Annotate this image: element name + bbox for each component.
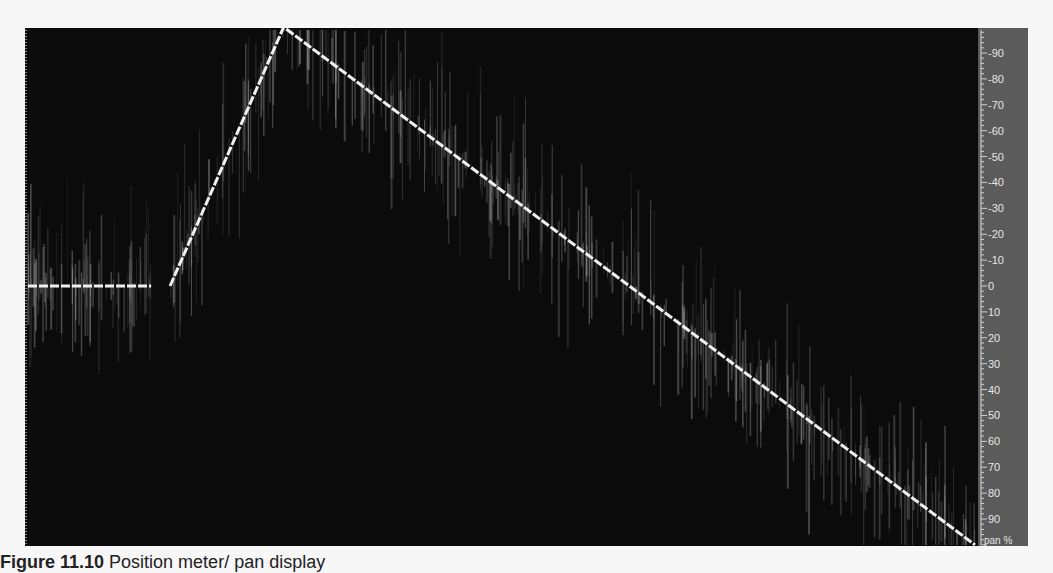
noise-streaks [28,30,974,545]
pan-scale-tick-label: 80 [988,487,1000,499]
pan-scale-tick-label: -90 [988,47,1004,59]
figure-caption: Figure 11.10 Position meter/ pan display [0,552,325,573]
pan-unit-label: pan % [984,535,1012,546]
pan-scale-tick-label: 10 [988,306,1000,318]
pan-scale-tick-label: 90 [988,513,1000,525]
caption-text: Position meter/ pan display [109,552,325,572]
pan-scale-tick-label: -10 [988,254,1004,266]
pan-scale-tick-label: 30 [988,358,1000,370]
pan-scale-tick-label: -40 [988,176,1004,188]
pan-scale-tick-label: 40 [988,384,1000,396]
pan-scale-tick-label: 60 [988,435,1000,447]
pan-scale-tick-label: 0 [988,280,994,292]
pan-scale-tick-label: -20 [988,228,1004,240]
pan-scale-tick-label: -80 [988,73,1004,85]
pan-scale-tick-label: -60 [988,125,1004,137]
pan-scale-tick-label: -30 [988,202,1004,214]
pan-scale-tick-label: 50 [988,409,1000,421]
pan-scale-tick-label: -70 [988,99,1004,111]
pan-scale-tick-label: 20 [988,332,1000,344]
pan-trace-line [170,27,975,545]
pan-scale-tick-label: -50 [988,151,1004,163]
caption-label: Figure 11.10 [0,552,104,572]
pan-scale-tick-label: 70 [988,461,1000,473]
